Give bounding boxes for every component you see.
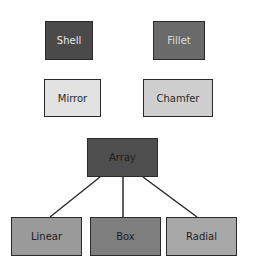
- node-label: Radial: [186, 231, 217, 242]
- node-label: Box: [116, 231, 135, 242]
- node-array: Array: [87, 138, 158, 177]
- node-label: Shell: [57, 35, 81, 46]
- node-label: Chamfer: [157, 93, 200, 104]
- node-mirror: Mirror: [44, 79, 101, 117]
- node-linear: Linear: [11, 217, 82, 256]
- node-label: Mirror: [58, 93, 87, 104]
- node-label: Linear: [31, 231, 62, 242]
- node-box: Box: [90, 217, 161, 256]
- node-label: Array: [109, 152, 136, 163]
- node-chamfer: Chamfer: [143, 79, 213, 117]
- edge-array-linear: [50, 177, 100, 217]
- node-fillet: Fillet: [153, 21, 205, 60]
- node-label: Fillet: [167, 35, 190, 46]
- edge-array-radial: [143, 177, 197, 217]
- node-shell: Shell: [45, 21, 93, 60]
- node-radial: Radial: [166, 217, 237, 256]
